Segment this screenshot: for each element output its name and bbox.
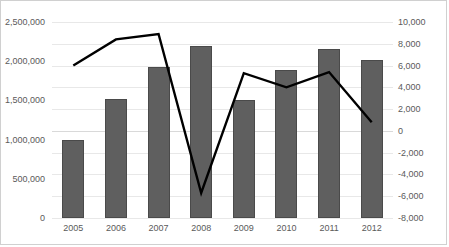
x-axis-tick-2012: 2012 <box>350 223 394 233</box>
y-axis-left-tick: 2,500,000 <box>1 17 45 27</box>
y-axis-right-tick: -6,000 <box>398 191 444 201</box>
gridline <box>52 218 393 219</box>
y-axis-right-tick: -8,000 <box>398 213 444 223</box>
y-axis-left-tick: 500,000 <box>1 174 45 184</box>
y-axis-right-tick: -4,000 <box>398 169 444 179</box>
y-axis-right-tick: -2,000 <box>398 148 444 158</box>
y-axis-left-tick: 2,000,000 <box>1 56 45 66</box>
y-axis-right-tick: 0 <box>398 126 444 136</box>
y-axis-right-tick: 2,000 <box>398 104 444 114</box>
x-axis-tick-2010: 2010 <box>264 223 308 233</box>
x-axis-tick-2005: 2005 <box>51 223 95 233</box>
y-axis-left-tick: 1,000,000 <box>1 135 45 145</box>
x-axis-tick-2008: 2008 <box>179 223 223 233</box>
y-axis-right-tick: 10,000 <box>398 17 444 27</box>
x-axis-tick-2009: 2009 <box>222 223 266 233</box>
y-axis-right-tick: 8,000 <box>398 39 444 49</box>
line-series <box>52 22 393 218</box>
plot-area <box>52 22 393 218</box>
y-axis-right-tick: 4,000 <box>398 82 444 92</box>
x-axis-tick-2007: 2007 <box>137 223 181 233</box>
y-axis-right-tick: 6,000 <box>398 61 444 71</box>
y-axis-left-tick: 1,500,000 <box>1 95 45 105</box>
x-axis-tick-2006: 2006 <box>94 223 138 233</box>
y-axis-left-tick: 0 <box>1 213 45 223</box>
x-axis-tick-2011: 2011 <box>307 223 351 233</box>
line-path <box>73 34 371 193</box>
chart-frame: 0500,0001,000,0001,500,0002,000,0002,500… <box>0 0 447 245</box>
